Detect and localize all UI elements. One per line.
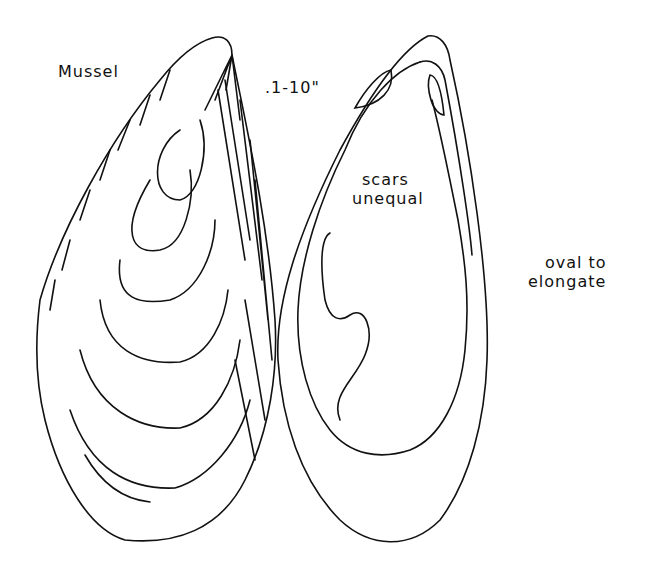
exterior-valve <box>37 37 276 541</box>
interior-valve <box>278 36 488 542</box>
pallial-line <box>322 233 369 420</box>
shape-label-line1: oval to <box>545 253 607 273</box>
size-range-label: .1-10" <box>265 78 320 98</box>
title-label: Mussel <box>58 62 119 82</box>
posterior-muscle-scar <box>429 75 444 115</box>
shape-label-line2: elongate <box>528 272 606 292</box>
unequal-label: unequal <box>352 189 424 209</box>
scars-label: scars <box>362 170 409 190</box>
